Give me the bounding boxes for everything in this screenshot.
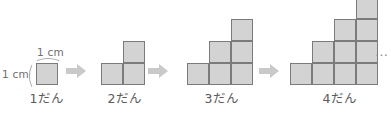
stage-1-label: 1だん bbox=[24, 88, 70, 107]
arrow-head bbox=[270, 64, 279, 78]
unit-square bbox=[312, 63, 334, 85]
arrow-2-to-3-icon bbox=[148, 64, 168, 78]
unit-square bbox=[356, 63, 378, 85]
stage-2-label: 2だん bbox=[92, 88, 158, 107]
arrow-head bbox=[159, 64, 168, 78]
height-bracket-arc bbox=[29, 62, 43, 90]
unit-square bbox=[290, 63, 312, 85]
staircase-pattern-figure: 1 cm 1 cm 1だん2だん3だん4だん … bbox=[0, 0, 391, 118]
height-cm-label: 1 cm bbox=[2, 68, 29, 80]
arrow-3-to-4-icon bbox=[259, 64, 279, 78]
continuation-ellipsis: … bbox=[375, 44, 389, 59]
unit-square bbox=[334, 63, 356, 85]
stage-4-label: 4だん bbox=[285, 88, 391, 107]
unit-square bbox=[334, 41, 356, 63]
unit-square bbox=[356, 19, 378, 41]
unit-square bbox=[334, 19, 356, 41]
width-cm-label: 1 cm bbox=[37, 46, 64, 58]
arrow-1-to-2-icon bbox=[66, 64, 86, 78]
unit-square bbox=[312, 41, 334, 63]
arrow-head bbox=[77, 64, 86, 78]
unit-square bbox=[356, 0, 378, 19]
stage-3-label: 3だん bbox=[178, 88, 266, 107]
